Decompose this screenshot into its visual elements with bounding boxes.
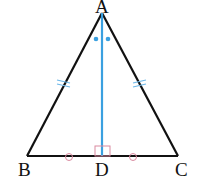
tick-marks-ab xyxy=(57,80,70,87)
side-ac xyxy=(102,13,178,156)
angle-dot-right xyxy=(106,37,111,42)
triangle-figure: A B D C xyxy=(0,0,202,185)
side-ab xyxy=(27,13,102,156)
label-c: C xyxy=(175,159,188,180)
angle-dot-left xyxy=(94,37,99,42)
label-d: D xyxy=(95,159,109,180)
diagram-canvas: A B D C xyxy=(0,0,202,185)
label-a: A xyxy=(95,0,109,17)
label-b: B xyxy=(18,159,31,180)
